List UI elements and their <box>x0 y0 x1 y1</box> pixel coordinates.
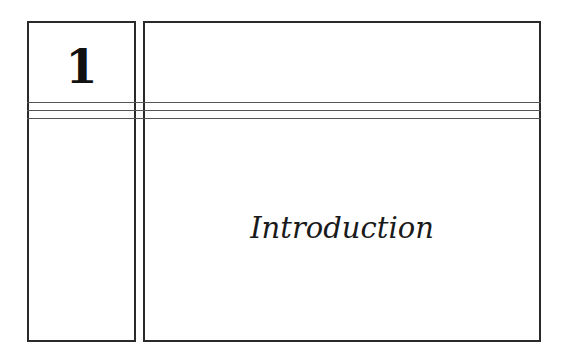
chapter-title: Introduction <box>143 210 541 246</box>
chapter-number: 1 <box>27 44 136 90</box>
chapter-title-panel <box>143 21 541 342</box>
rule-line-top <box>27 102 541 103</box>
rule-line-middle <box>27 110 541 111</box>
rule-line-bottom <box>27 118 541 119</box>
